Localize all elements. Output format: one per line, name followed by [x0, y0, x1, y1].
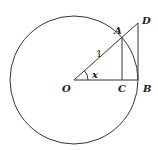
label-B: B	[142, 83, 151, 94]
label-C: C	[118, 83, 126, 94]
radius-label: 1	[96, 48, 102, 59]
label-O: O	[62, 83, 71, 94]
angle-arc	[85, 71, 89, 80]
segment-OD	[74, 23, 138, 80]
angle-label: x	[91, 69, 99, 80]
unit-circle-diagram: O A B C D 1 x	[0, 0, 158, 150]
label-A: A	[113, 25, 122, 36]
label-D: D	[141, 15, 151, 26]
